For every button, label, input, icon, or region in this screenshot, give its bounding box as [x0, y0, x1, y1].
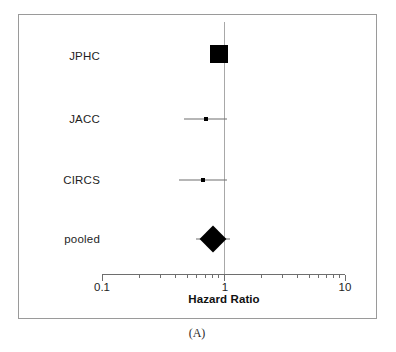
row-label-jphc: JPHC: [69, 51, 100, 63]
forest-plot-figure: JPHC JACC CIRCS pooled 0.1 1 10 Hazard R…: [0, 0, 396, 352]
x-tick-minor-7: [326, 275, 327, 278]
x-tick-minor-4: [297, 275, 298, 278]
x-tick-minor-0.2: [139, 275, 140, 278]
x-tick-minor-3: [282, 275, 283, 278]
x-tick-minor-0.4: [175, 275, 176, 278]
row-label-pooled: pooled: [64, 234, 100, 246]
x-tick-label-0.1: 0.1: [94, 282, 110, 294]
x-tick-minor-9: [339, 275, 340, 278]
x-tick-label-10: 10: [339, 282, 352, 294]
x-tick-minor-2: [261, 275, 262, 278]
x-axis-title: Hazard Ratio: [188, 294, 260, 306]
x-tick-minor-8: [333, 275, 334, 278]
x-tick-minor-0.7: [205, 275, 206, 278]
point-estimate-square-jphc: [210, 45, 228, 63]
panel-caption: (A): [189, 327, 206, 339]
x-tick-minor-0.3: [160, 275, 161, 278]
x-tick-minor-0.5: [187, 275, 188, 278]
x-tick-minor-5: [309, 275, 310, 278]
x-tick-minor-0.9: [218, 275, 219, 278]
row-label-jacc: JACC: [69, 114, 100, 126]
x-tick-minor-6: [318, 275, 319, 278]
row-label-circs: CIRCS: [63, 175, 100, 187]
x-tick-label-1: 1: [222, 282, 228, 294]
point-estimate-dot-circs: [201, 178, 205, 182]
x-tick-minor-0.6: [196, 275, 197, 278]
x-tick-minor-0.8: [212, 275, 213, 278]
point-estimate-dot-jacc: [204, 117, 208, 121]
